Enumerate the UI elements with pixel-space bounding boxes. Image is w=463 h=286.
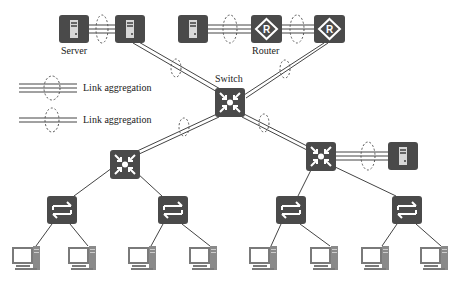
legend-label-triple: Link aggregation	[83, 82, 152, 93]
server-label: Server	[61, 45, 87, 56]
access-switch-4-icon	[392, 196, 422, 224]
access-switch-2-icon	[158, 196, 188, 224]
router-label: Router	[252, 45, 279, 56]
access-switch-1-icon	[47, 196, 77, 224]
router-2-icon	[314, 15, 345, 43]
dist-switch-right-icon	[306, 142, 336, 171]
server-4-icon	[388, 142, 418, 170]
pc-3-icon	[129, 246, 156, 270]
pc-8-icon	[421, 246, 448, 270]
pc-7-icon	[362, 246, 389, 270]
network-topology-diagram: R	[0, 0, 463, 286]
server-2-icon	[115, 15, 145, 43]
legend-double-link-icon	[19, 118, 77, 122]
legend-label-double: Link aggregation	[83, 114, 152, 125]
router-1-icon	[251, 15, 282, 43]
legend-triple-link-icon	[19, 84, 77, 92]
pc-4-icon	[190, 246, 217, 270]
dist-switch-left-icon	[110, 150, 140, 179]
pc-6-icon	[311, 246, 338, 270]
pc-2-icon	[69, 246, 96, 270]
core-switch-icon	[215, 88, 245, 117]
pc-5-icon	[250, 246, 277, 270]
link-server1-server2	[89, 25, 115, 33]
pc-1-icon	[13, 246, 40, 270]
server-1-icon	[59, 15, 89, 43]
server-3-icon	[178, 15, 208, 43]
switch-label: Switch	[215, 73, 243, 84]
access-switch-3-icon	[276, 196, 306, 224]
